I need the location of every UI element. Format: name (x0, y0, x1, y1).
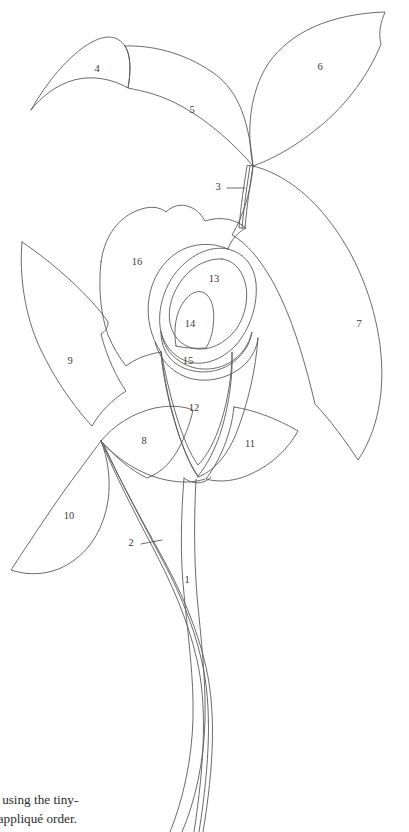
piece-label-4: 4 (94, 63, 100, 74)
caption-line-2: ue appliqué order. (0, 809, 142, 828)
leader-line-2 (141, 540, 162, 544)
pattern-page: 1 2 3 4 5 6 7 8 9 10 11 12 13 14 15 16 c… (0, 0, 409, 832)
piece-label-5: 5 (189, 104, 194, 115)
piece-label-6: 6 (317, 61, 322, 72)
piece-shape-13 (160, 248, 257, 363)
caption-line-1: ces using the tiny- (0, 790, 142, 809)
piece-label-9: 9 (67, 355, 72, 366)
piece-label-14: 14 (185, 318, 196, 329)
piece-shape-4 (31, 37, 130, 110)
piece-shape-7 (232, 166, 382, 460)
piece-label-15: 15 (183, 355, 194, 366)
piece-label-8: 8 (141, 435, 146, 446)
piece-label-7: 7 (356, 318, 361, 329)
piece-12-right-edge (198, 338, 258, 477)
caption-text: ces using the tiny- ue appliqué order. (0, 790, 142, 828)
piece-label-12: 12 (189, 402, 200, 413)
piece-shape-1-left (170, 478, 193, 832)
piece-label-10: 10 (64, 510, 75, 521)
piece-shape-9 (21, 242, 126, 426)
piece-shape-1-right (182, 479, 205, 832)
piece-shape-12 (161, 352, 232, 476)
piece-shape-2-right (103, 443, 208, 832)
piece-shape-6 (250, 12, 385, 166)
pattern-illustration: 1 2 3 4 5 6 7 8 9 10 11 12 13 14 15 16 (0, 0, 409, 832)
piece-shape-16 (100, 205, 246, 366)
piece-shape-10 (11, 441, 109, 574)
piece-label-16: 16 (132, 256, 143, 267)
piece-label-2: 2 (128, 537, 133, 548)
piece-label-13: 13 (209, 273, 220, 284)
piece-label-11: 11 (245, 438, 255, 449)
piece-label-1: 1 (184, 574, 189, 585)
piece-label-3: 3 (215, 181, 220, 192)
